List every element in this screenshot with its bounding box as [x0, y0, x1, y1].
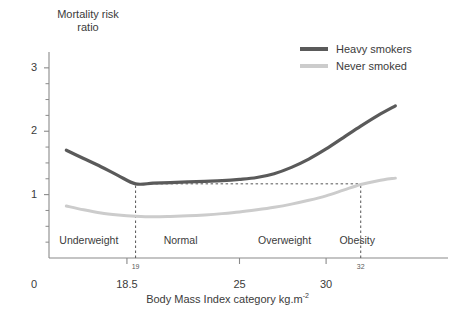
y-tick-label: 1 — [15, 188, 37, 200]
axes-layer — [44, 52, 448, 264]
category-label: Overweight — [258, 234, 311, 246]
plot-area — [0, 0, 455, 313]
category-label: Obesity — [339, 234, 375, 246]
x-tick-label: 25 — [233, 278, 245, 290]
y-tick-label: 2 — [15, 124, 37, 136]
category-label: Normal — [164, 234, 198, 246]
data-series-layer — [66, 106, 395, 217]
category-label: Underweight — [59, 234, 118, 246]
chart-figure: Mortality risk ratio Body Mass Index cat… — [0, 0, 455, 313]
y-tick-label: 3 — [15, 61, 37, 73]
y-tick-label: 0 — [15, 278, 37, 290]
x-tick-label: 18.5 — [116, 278, 137, 290]
series-line-heavy-smokers — [66, 106, 395, 184]
x-tick-label: 30 — [320, 278, 332, 290]
x-tick-minor-label: 32 — [357, 263, 365, 270]
x-tick-minor-label: 19 — [132, 263, 140, 270]
